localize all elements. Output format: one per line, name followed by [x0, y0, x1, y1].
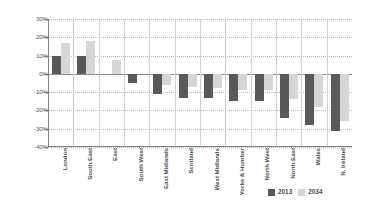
legend-swatch-icon — [268, 189, 275, 196]
legend-label: 2034 — [308, 189, 322, 195]
y-axis-tick-label: -30% — [4, 126, 48, 132]
x-axis-label-slot: Scotland — [175, 148, 199, 206]
x-axis-label-slot: South East — [74, 148, 98, 206]
legend-item[interactable]: 2013 — [268, 189, 292, 196]
x-axis-label-slot: West Midlands — [201, 148, 225, 206]
legend-item[interactable]: 2034 — [298, 189, 322, 196]
x-axis-label-slot: Wales — [302, 148, 326, 206]
x-axis-tick-label: East Midlands — [162, 148, 169, 189]
x-axis-tick-label: London — [61, 148, 68, 170]
y-axis-tick-label: 30% — [4, 16, 48, 22]
y-axis-tick-label: 10% — [4, 53, 48, 59]
y-axis-tick-label: -40% — [4, 144, 48, 150]
x-axis-tick-label: North West — [263, 148, 270, 180]
chart-legend: 20132034 — [268, 189, 322, 196]
x-axis-tick-label: Wales — [314, 148, 321, 165]
x-axis-label-slot: North East — [277, 148, 301, 206]
plot-area — [48, 19, 352, 147]
x-axis-tick-label: N. Ireland — [339, 148, 346, 176]
y-axis-tick-label: 20% — [4, 34, 48, 40]
y-axis-tick-label: 0% — [4, 71, 48, 77]
x-axis-label-slot: Yorks & Humber — [226, 148, 250, 206]
legend-label: 2013 — [278, 189, 292, 195]
y-axis-tick-label: -20% — [4, 107, 48, 113]
bar-chart: 30%20%10%0%-10%-20%-30%-40% LondonSouth … — [0, 0, 377, 218]
x-axis-tick-label: Yorks & Humber — [238, 148, 245, 195]
x-axis-tick-label: East — [111, 148, 118, 161]
legend-swatch-icon — [298, 189, 305, 196]
x-axis-tick-label: South West — [137, 148, 144, 181]
x-axis-tick-label: South East — [86, 148, 93, 180]
x-axis-label-slot: North West — [251, 148, 275, 206]
x-axis-tick-label: North East — [289, 148, 296, 179]
x-axis-label-slot: East — [99, 148, 123, 206]
x-axis-tick-label: West Midlands — [213, 148, 220, 191]
x-axis-tick-label: Scotland — [187, 148, 194, 174]
plot-frame — [48, 19, 352, 147]
y-axis-tick-label: -10% — [4, 89, 48, 95]
x-axis-label-slot: South West — [125, 148, 149, 206]
x-axis-labels: LondonSouth EastEastSouth WestEast Midla… — [48, 148, 352, 206]
x-axis-label-slot: East Midlands — [150, 148, 174, 206]
x-axis-label-slot: London — [49, 148, 73, 206]
x-axis-label-slot: N. Ireland — [327, 148, 351, 206]
